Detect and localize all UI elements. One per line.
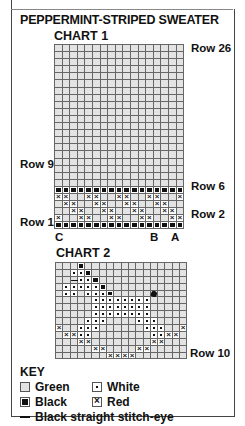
green-cell (63, 137, 71, 144)
green-cell (123, 123, 131, 130)
green-cell (55, 180, 63, 187)
white-cell (122, 304, 129, 311)
green-cell (78, 151, 86, 158)
green-swatch-icon (20, 382, 30, 392)
black-square-swatch-icon (20, 397, 30, 407)
green-cell (101, 45, 109, 52)
green-cell (114, 284, 121, 291)
green-cell (78, 109, 86, 116)
green-cell (139, 130, 147, 137)
green-cell (161, 137, 169, 144)
black-cell (161, 187, 169, 194)
green-cell (63, 109, 71, 116)
black-cell (108, 222, 116, 229)
green-cell (85, 173, 93, 180)
green-cell (63, 130, 71, 137)
green-cell (85, 304, 92, 311)
green-cell (63, 144, 71, 151)
green-cell (131, 73, 139, 80)
green-cell (63, 80, 71, 87)
green-cell (55, 116, 63, 123)
green-cell (139, 123, 147, 130)
green-cell (78, 297, 85, 304)
red-cell (146, 194, 154, 201)
red-cell (173, 332, 180, 339)
green-cell (108, 180, 116, 187)
green-cell (55, 130, 63, 137)
dash-line-icon (20, 416, 30, 418)
white-cell (136, 311, 143, 318)
green-cell (85, 353, 92, 360)
red-cell (180, 325, 187, 332)
black-cell (100, 284, 107, 291)
white-cell (129, 311, 136, 318)
green-cell (63, 346, 70, 353)
green-cell (93, 144, 101, 151)
green-cell (169, 159, 177, 166)
green-cell (78, 137, 86, 144)
green-cell (107, 339, 114, 346)
green-cell (129, 270, 136, 277)
green-cell (116, 180, 124, 187)
black-cell (85, 270, 92, 277)
green-cell (139, 73, 147, 80)
green-cell (173, 339, 180, 346)
red-cell (129, 353, 136, 360)
green-cell (100, 270, 107, 277)
green-cell (78, 80, 86, 87)
white-cell (85, 284, 92, 291)
black-cell (131, 187, 139, 194)
green-cell (63, 277, 70, 284)
green-cell (123, 102, 131, 109)
green-cell (70, 102, 78, 109)
green-cell (70, 66, 78, 73)
green-cell (85, 123, 93, 130)
green-cell (116, 173, 124, 180)
green-cell (154, 59, 162, 66)
green-cell (139, 45, 147, 52)
green-cell (114, 291, 121, 298)
green-cell (146, 173, 154, 180)
green-cell (165, 277, 172, 284)
green-cell (101, 59, 109, 66)
red-cell (139, 215, 147, 222)
black-cell (154, 222, 162, 229)
green-cell (101, 151, 109, 158)
green-cell (101, 52, 109, 59)
green-cell (78, 194, 86, 201)
green-cell (55, 166, 63, 173)
green-cell (55, 137, 63, 144)
green-cell (161, 45, 169, 52)
green-cell (78, 318, 85, 325)
green-cell (93, 208, 101, 215)
green-cell (161, 159, 169, 166)
green-cell (122, 325, 129, 332)
green-cell (169, 88, 177, 95)
green-cell (93, 59, 101, 66)
key-item-stitch-eye: Black straight stitch-eye (20, 410, 174, 424)
green-cell (165, 353, 172, 360)
red-cell (107, 353, 114, 360)
black-cell (63, 222, 71, 229)
green-cell (123, 215, 131, 222)
green-cell (169, 109, 177, 116)
green-cell (63, 95, 71, 102)
green-cell (85, 102, 93, 109)
white-cell (136, 304, 143, 311)
green-cell (139, 95, 147, 102)
green-cell (177, 173, 185, 180)
white-cell (100, 297, 107, 304)
green-cell (136, 291, 143, 298)
green-cell (101, 144, 109, 151)
green-cell (151, 311, 158, 318)
white-cell (63, 284, 70, 291)
green-cell (116, 123, 124, 130)
green-cell (71, 297, 78, 304)
green-cell (108, 173, 116, 180)
green-cell (139, 180, 147, 187)
green-cell (56, 291, 63, 298)
green-cell (146, 102, 154, 109)
white-cell (144, 304, 151, 311)
green-cell (63, 116, 71, 123)
red-cell (146, 215, 154, 222)
